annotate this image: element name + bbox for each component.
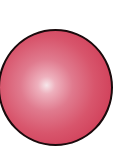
red-sphere — [0, 29, 113, 146]
